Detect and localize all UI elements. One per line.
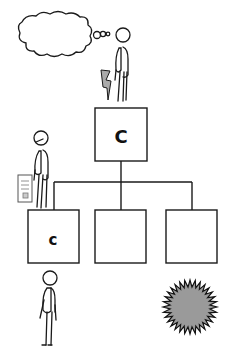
thought-bubble — [18, 12, 109, 57]
starburst-icon — [163, 280, 217, 334]
top-box-label: C — [114, 126, 127, 147]
child-box-1: c — [28, 210, 79, 263]
org-chart-diagram: C c — [0, 0, 230, 361]
child-box-2 — [95, 210, 146, 263]
connector-lines — [54, 161, 192, 210]
standing-figure — [40, 271, 57, 345]
top-box: C — [95, 108, 147, 161]
child-box-1-label: c — [49, 231, 58, 249]
thinking-figure — [115, 28, 130, 101]
document-icon — [18, 175, 32, 202]
document-figure — [34, 131, 48, 208]
lightning-bolt-icon — [101, 70, 111, 100]
child-box-3 — [166, 210, 217, 263]
